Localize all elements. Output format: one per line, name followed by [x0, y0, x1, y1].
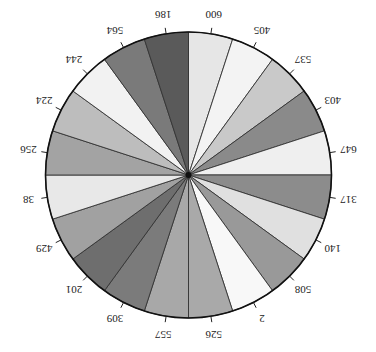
tick-256 — [41, 152, 47, 153]
tick-537 — [290, 70, 294, 74]
tick-317 — [330, 197, 336, 198]
tick-403 — [316, 107, 321, 110]
tick-526 — [211, 316, 212, 322]
slice-label: 403 — [324, 95, 341, 107]
tick-38 — [41, 197, 47, 198]
slice-label: 186 — [154, 9, 171, 21]
pie-center — [186, 172, 192, 178]
slice-label: 647 — [340, 144, 357, 156]
slice-label: 224 — [35, 95, 52, 107]
pie-chart: 6004055374036473171405082526557309201429… — [0, 0, 376, 352]
slice-label: 38 — [22, 194, 34, 206]
slice-label: 309 — [106, 313, 123, 325]
tick-201 — [83, 276, 87, 280]
tick-429 — [56, 240, 61, 243]
tick-405 — [253, 42, 256, 47]
slice-label: 526 — [205, 329, 222, 341]
slice-label: 2 — [259, 313, 265, 325]
slice-label: 557 — [154, 329, 171, 341]
tick-557 — [165, 316, 166, 322]
tick-600 — [211, 28, 212, 34]
slice-label: 317 — [340, 194, 357, 206]
slice-label: 244 — [65, 54, 82, 66]
tick-224 — [56, 107, 61, 110]
tick-508 — [290, 276, 294, 280]
slice-label: 564 — [106, 25, 123, 37]
slice-label: 508 — [294, 284, 311, 296]
slice-label: 405 — [253, 25, 270, 37]
slice-label: 256 — [20, 144, 37, 156]
tick-309 — [121, 302, 124, 307]
slice-label: 429 — [35, 243, 52, 255]
slice-label: 201 — [66, 284, 83, 296]
tick-140 — [316, 240, 321, 243]
tick-2 — [253, 302, 256, 307]
slice-label: 600 — [205, 9, 222, 21]
tick-647 — [330, 152, 336, 153]
tick-564 — [121, 42, 124, 47]
tick-186 — [165, 28, 166, 34]
slice-label: 537 — [294, 54, 311, 66]
slice-label: 140 — [324, 243, 341, 255]
tick-244 — [83, 70, 87, 74]
